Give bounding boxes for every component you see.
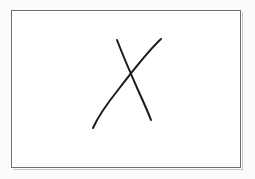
paper-rectangle	[11, 10, 241, 168]
image-canvas	[0, 0, 255, 179]
